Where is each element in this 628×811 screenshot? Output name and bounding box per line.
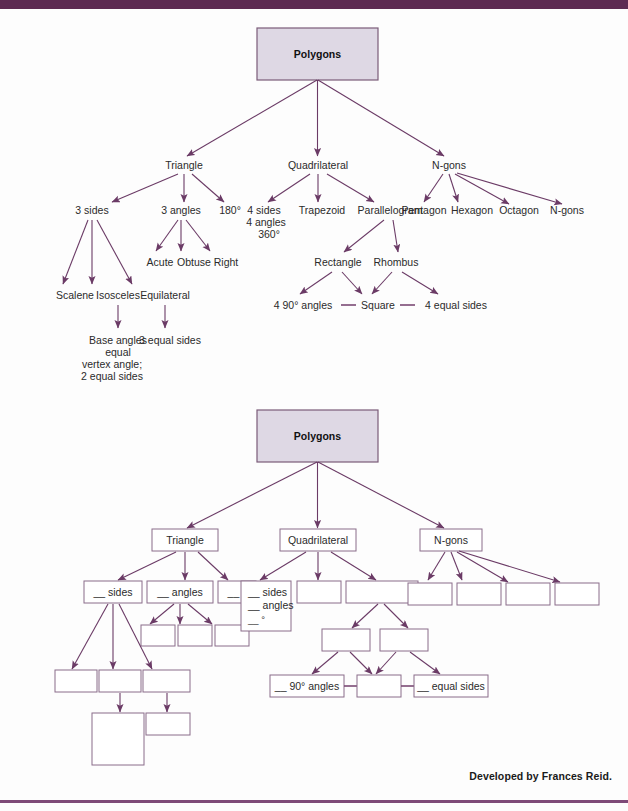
node-trapezoid: Trapezoid — [299, 204, 345, 216]
node-equilateral-detail: 3 equal sides — [139, 334, 201, 346]
node-right: Right — [214, 256, 239, 268]
node-quadrilateral: Quadrilateral — [288, 159, 348, 171]
node-obtuse: Obtuse — [177, 256, 211, 268]
node-ngons: N-gons — [432, 159, 466, 171]
blank-node-sides-label: __ sides — [92, 586, 132, 598]
concept-map-completed: Polygons Triangle Quadrilateral N-gons 3… — [0, 12, 628, 384]
node-isosceles-detail-3: vertex angle; — [82, 358, 142, 370]
blank-ngon-box-4[interactable] — [555, 583, 599, 605]
blank-detail-box-large[interactable] — [92, 713, 144, 765]
node-hexagon: Hexagon — [451, 204, 493, 216]
blank-angle-box-2[interactable] — [178, 625, 212, 646]
bottom-accent-rule — [0, 800, 628, 803]
blank-node-quadrilateral-label: Quadrilateral — [288, 534, 348, 546]
node-ngons-leaf: N-gons — [550, 204, 584, 216]
blank-ngon-box-2[interactable] — [457, 583, 501, 605]
blank-90-angles-label: __ 90° angles — [274, 680, 339, 692]
node-180-degrees: 180° — [219, 204, 241, 216]
node-square: Square — [361, 299, 395, 311]
credit-line: Developed by Frances Reid. — [469, 770, 612, 782]
node-isosceles-detail-4: 2 equal sides — [81, 370, 143, 382]
node-scalene: Scalene — [56, 289, 94, 301]
blank-root-node-label: Polygons — [294, 430, 341, 442]
blank-rhombus-box[interactable] — [380, 629, 428, 651]
blank-angle-box-1[interactable] — [141, 625, 175, 646]
blank-node-angles-label: __ angles — [156, 586, 203, 598]
blank-quad-box-2[interactable] — [297, 581, 341, 603]
node-4-equal-sides: 4 equal sides — [425, 299, 487, 311]
blank-quad-box-3[interactable] — [346, 581, 418, 603]
top-accent-bar — [0, 0, 628, 9]
blank-node-triangle-label: Triangle — [166, 534, 204, 546]
node-equilateral: Equilateral — [140, 289, 190, 301]
node-360-degrees: 360° — [258, 228, 280, 240]
node-4-90-angles: 4 90° angles — [274, 299, 333, 311]
blank-side-box-2[interactable] — [99, 670, 141, 692]
blank-quad-sides-label-3: __ ° — [247, 614, 265, 625]
node-3-angles: 3 angles — [161, 204, 201, 216]
worksheet-page: Polygons Triangle Quadrilateral N-gons 3… — [0, 0, 628, 811]
blank-side-box-1[interactable] — [55, 670, 97, 692]
blank-detail-box-small[interactable] — [146, 713, 190, 735]
blank-square-box[interactable] — [357, 675, 401, 697]
blank-quad-sides-label-2: __ angles — [247, 599, 294, 611]
node-octagon: Octagon — [499, 204, 539, 216]
blank-side-box-3[interactable] — [143, 670, 190, 692]
blank-quad-sides-label-1: __ sides — [247, 586, 287, 598]
node-isosceles: Isosceles — [96, 289, 140, 301]
node-triangle: Triangle — [165, 159, 203, 171]
blank-node-ngons-label: N-gons — [434, 534, 468, 546]
blank-ngon-box-3[interactable] — [506, 583, 550, 605]
node-4-sides: 4 sides — [247, 204, 280, 216]
node-3-sides: 3 sides — [75, 204, 108, 216]
node-rectangle: Rectangle — [314, 256, 361, 268]
root-node-label: Polygons — [294, 48, 341, 60]
node-acute: Acute — [147, 256, 174, 268]
concept-map-blank: Polygons Triangle Quadrilateral N-gons _… — [0, 396, 628, 768]
node-pentagon: Pentagon — [402, 204, 447, 216]
blank-equal-sides-label: __ equal sides — [416, 680, 485, 692]
node-4-angles: 4 angles — [246, 216, 286, 228]
node-rhombus: Rhombus — [374, 256, 419, 268]
node-isosceles-detail-2: equal — [105, 346, 131, 358]
blank-ngon-box-1[interactable] — [408, 583, 452, 605]
blank-rectangle-box[interactable] — [322, 629, 370, 651]
